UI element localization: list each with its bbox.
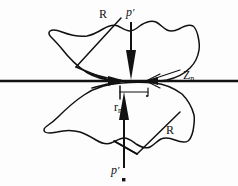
figure-canvas: .stroke-thin { fill:none; stroke:#111111…: [0, 0, 238, 186]
label-load-bottom: p′: [111, 164, 119, 176]
diagram-svg: .stroke-thin { fill:none; stroke:#111111…: [0, 0, 238, 186]
radius-leader-top: [76, 18, 121, 80]
label-contact-radius-subscript: n: [118, 106, 122, 115]
label-radius-top: R: [99, 8, 107, 20]
label-gap-axial-subscript: n: [190, 74, 194, 83]
label-contact-radius: rn: [114, 101, 122, 113]
label-gap-axial: Zn: [183, 69, 194, 81]
label-load-bottom-prime: ′: [117, 164, 119, 176]
label-load-top-prime: ′: [132, 6, 134, 18]
label-load-top: p′: [126, 6, 134, 18]
ink-speck: [122, 178, 125, 181]
upper-asperity-body: [49, 21, 200, 81]
zn-dimension-arrow: [145, 70, 180, 88]
lower-asperity-body: [44, 82, 194, 148]
label-radius-bottom: R: [166, 124, 174, 136]
